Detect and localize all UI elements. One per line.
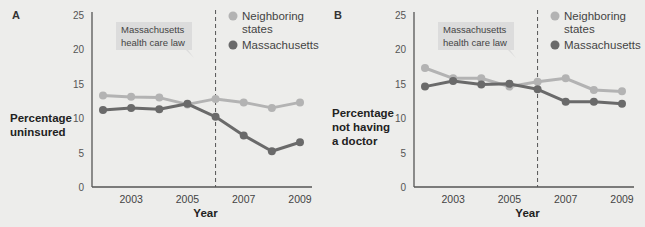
data-point — [99, 106, 107, 114]
data-point — [618, 87, 626, 95]
annotation-text: health care law — [121, 37, 185, 48]
x-tick-label: 2005 — [176, 193, 200, 205]
y-tick-label: 5 — [400, 148, 406, 159]
data-point — [240, 98, 248, 106]
data-point — [421, 83, 429, 91]
data-point — [534, 78, 542, 86]
legend-label-neighboring: states — [242, 23, 273, 35]
data-point — [618, 100, 626, 108]
data-point — [477, 80, 485, 88]
data-point — [534, 85, 542, 93]
data-point — [590, 98, 598, 106]
y-tick-label: 15 — [73, 79, 85, 90]
x-tick-label: 2003 — [441, 193, 465, 205]
data-point — [268, 147, 276, 155]
y-tick-label: 20 — [73, 44, 85, 55]
panel-label: A — [12, 9, 20, 21]
y-tick-label: 15 — [395, 79, 407, 90]
x-tick-label: 2009 — [610, 193, 634, 205]
data-point — [268, 104, 276, 112]
y-tick-label: 20 — [395, 44, 407, 55]
data-point — [562, 98, 570, 106]
data-point — [590, 86, 598, 94]
charts-figure: APercentageuninsured05101520252003200520… — [0, 0, 645, 227]
annotation-text: Massachusetts — [121, 24, 185, 35]
chart-panel-a: APercentageuninsured05101520252003200520… — [10, 9, 319, 219]
data-point — [155, 94, 163, 102]
data-point — [212, 95, 220, 103]
y-tick-label: 0 — [78, 182, 84, 193]
y-tick-label: 10 — [73, 113, 85, 124]
data-point — [183, 100, 191, 108]
y-axis-label: uninsured — [10, 126, 66, 138]
legend-marker-neighboring — [229, 12, 238, 21]
data-point — [449, 77, 457, 85]
y-axis-label: a doctor — [332, 135, 378, 147]
y-tick-label: 25 — [73, 10, 85, 21]
legend-label-neighboring: Neighboring — [242, 10, 304, 22]
legend-marker-massachusetts — [551, 41, 560, 50]
x-tick-label: 2005 — [498, 193, 522, 205]
x-axis-label: Year — [515, 207, 540, 219]
legend-label-massachusetts: Massachusetts — [564, 39, 641, 51]
legend-label-massachusetts: Massachusetts — [242, 39, 319, 51]
legend-marker-massachusetts — [229, 41, 238, 50]
data-point — [421, 64, 429, 72]
data-point — [127, 104, 135, 112]
y-tick-label: 10 — [395, 113, 407, 124]
y-axis-label: Percentage — [332, 107, 394, 119]
chart-panel-b: BPercentagenot havinga doctor05101520252… — [332, 9, 641, 219]
annotation-text: health care law — [443, 37, 507, 48]
y-tick-label: 5 — [78, 148, 84, 159]
annotation-text: Massachusetts — [443, 24, 507, 35]
data-point — [296, 98, 304, 106]
x-tick-label: 2003 — [119, 193, 143, 205]
data-point — [155, 105, 163, 113]
data-point — [99, 91, 107, 99]
data-point — [505, 80, 513, 88]
data-point — [212, 113, 220, 121]
y-axis-label: Percentage — [10, 112, 72, 124]
data-point — [127, 93, 135, 101]
panel-label: B — [334, 9, 342, 21]
legend-label-neighboring: states — [564, 23, 595, 35]
y-tick-label: 0 — [400, 182, 406, 193]
legend-label-neighboring: Neighboring — [564, 10, 626, 22]
data-point — [562, 74, 570, 82]
x-tick-label: 2009 — [288, 193, 312, 205]
data-point — [296, 138, 304, 146]
y-tick-label: 25 — [395, 10, 407, 21]
x-axis-label: Year — [193, 207, 218, 219]
data-point — [240, 131, 248, 139]
legend-marker-neighboring — [551, 12, 560, 21]
x-tick-label: 2007 — [232, 193, 256, 205]
y-axis-label: not having — [332, 121, 390, 133]
x-tick-label: 2007 — [554, 193, 578, 205]
